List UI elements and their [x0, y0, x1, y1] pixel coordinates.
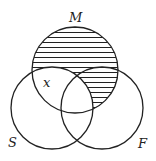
label-m: M: [68, 10, 83, 25]
region-label-x: x: [43, 75, 51, 90]
venn-diagram: M S F x: [0, 0, 156, 161]
label-f: F: [137, 136, 148, 151]
label-s: S: [8, 135, 17, 150]
